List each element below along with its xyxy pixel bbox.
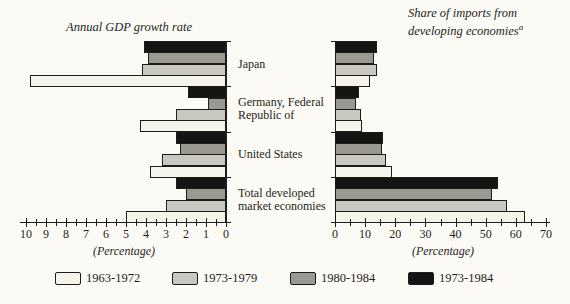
bar-germany-federal-republic-of-1973-1984 [335, 86, 359, 98]
bar-united-states-1980-1984 [180, 143, 226, 155]
footnote-marker: a [519, 22, 524, 32]
bar-united-states-1973-1979 [335, 154, 386, 166]
axis-minor-tick [410, 219, 411, 226]
bar-united-states-1963-1972 [150, 166, 226, 178]
bar-germany-federal-republic-of-1980-1984 [335, 98, 356, 110]
x-axis-title: (Percentage) [93, 244, 155, 259]
axis-tick [365, 218, 366, 227]
axis-minor-tick [471, 219, 472, 226]
axis-tick [546, 218, 547, 227]
axis-tick [226, 218, 227, 227]
right-chart-title-line1: Share of imports from [408, 6, 517, 20]
axis-tick [26, 218, 27, 227]
axis-tick [395, 218, 396, 227]
bar-united-states-1973-1984 [176, 132, 226, 144]
axis-tick [335, 218, 336, 227]
legend-item: 1980-1984 [290, 271, 375, 286]
group-tick [222, 132, 231, 133]
legend-swatch-1973-1984 [408, 272, 434, 285]
axis-tick [186, 218, 187, 227]
axis-tick-label: 30 [413, 227, 437, 242]
legend-label: 1980-1984 [321, 271, 375, 286]
axis-tick [425, 218, 426, 227]
axis-minor-tick [56, 219, 57, 226]
axis-minor-tick [36, 219, 37, 226]
axis-minor-tick [350, 219, 351, 226]
axis-minor-tick [196, 219, 197, 226]
left-chart-title: Annual GDP growth rate [66, 20, 192, 35]
legend-swatch-1963-1972 [55, 272, 81, 285]
bar-total-developed-market-economies-1963-1972 [335, 211, 525, 223]
axis-tick [66, 218, 67, 227]
group-tick [222, 41, 231, 42]
right-chart-title-line2: developing economies [408, 24, 519, 38]
category-label-line: Japan [238, 57, 265, 70]
axis-tick [166, 218, 167, 227]
bar-united-states-1973-1984 [335, 132, 383, 144]
group-tick [222, 177, 231, 178]
bar-total-developed-market-economies-1980-1984 [335, 188, 492, 200]
axis-minor-tick [156, 219, 157, 226]
x-axis-title: (Percentage) [412, 244, 474, 259]
group-tick [331, 177, 340, 178]
category-label: Japan [238, 57, 265, 70]
right-chart-title: Share of imports from developing economi… [408, 6, 523, 38]
x-axis-line [20, 222, 230, 223]
legend-label: 1973-1984 [439, 271, 493, 286]
group-tick [331, 41, 340, 42]
bar-united-states-1980-1984 [335, 143, 382, 155]
axis-minor-tick [216, 219, 217, 226]
bar-japan-1973-1979 [142, 64, 226, 76]
axis-tick [46, 218, 47, 227]
axis-minor-tick [380, 219, 381, 226]
bar-germany-federal-republic-of-1973-1984 [188, 86, 226, 98]
legend-item: 1973-1984 [408, 271, 493, 286]
legend-label: 1963-1972 [86, 271, 140, 286]
legend-swatch-1973-1979 [172, 272, 198, 285]
category-label-line: market economies [238, 200, 326, 213]
legend-label: 1973-1979 [203, 271, 257, 286]
group-tick [331, 86, 340, 87]
axis-tick-label: 50 [474, 227, 498, 242]
axis-tick [486, 218, 487, 227]
bar-total-developed-market-economies-1973-1979 [166, 200, 226, 212]
bar-total-developed-market-economies-1973-1984 [335, 177, 498, 189]
axis-tick-label: 20 [383, 227, 407, 242]
bar-japan-1963-1972 [30, 75, 226, 87]
axis-tick [146, 218, 147, 227]
bar-japan-1980-1984 [148, 52, 226, 64]
category-label: Total developedmarket economies [238, 187, 326, 213]
axis-tick [516, 218, 517, 227]
axis-minor-tick [441, 219, 442, 226]
bar-united-states-1963-1972 [335, 166, 392, 178]
legend-item: 1963-1972 [55, 271, 140, 286]
bar-japan-1973-1979 [335, 64, 377, 76]
bar-germany-federal-republic-of-1973-1979 [335, 109, 361, 121]
bar-united-states-1973-1979 [162, 154, 226, 166]
bar-total-developed-market-economies-1980-1984 [186, 188, 226, 200]
bar-total-developed-market-economies-1973-1979 [335, 200, 507, 212]
category-label-line: United States [238, 148, 302, 161]
category-label: Germany, FederalRepublic of [238, 96, 324, 122]
axis-tick-label: 40 [444, 227, 468, 242]
bar-japan-1973-1984 [335, 41, 377, 53]
category-label-line: Republic of [238, 109, 324, 122]
category-label: United States [238, 148, 302, 161]
axis-tick-label: 60 [504, 227, 528, 242]
bar-japan-1963-1972 [335, 75, 370, 87]
bar-germany-federal-republic-of-1980-1984 [208, 98, 226, 110]
figure: Annual GDP growth rate Share of imports … [0, 0, 570, 304]
axis-minor-tick [176, 219, 177, 226]
axis-tick [106, 218, 107, 227]
bar-japan-1980-1984 [335, 52, 374, 64]
axis-tick-label: 0 [323, 227, 347, 242]
axis-minor-tick [136, 219, 137, 226]
axis-tick [206, 218, 207, 227]
axis-minor-tick [531, 219, 532, 226]
group-tick [222, 86, 231, 87]
axis-tick-label: 0 [214, 227, 238, 242]
bar-germany-federal-republic-of-1963-1972 [335, 120, 362, 132]
bar-japan-1973-1984 [144, 41, 226, 53]
axis-tick-label: 10 [353, 227, 377, 242]
axis-tick [86, 218, 87, 227]
